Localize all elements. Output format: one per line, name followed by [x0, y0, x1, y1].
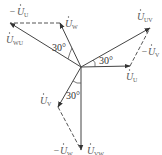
label-neg-u-w: − U W — [53, 143, 73, 155]
label-u-w: U W — [65, 16, 78, 30]
label-u-uv: U UV — [137, 9, 153, 23]
svg-text:−: − — [141, 46, 148, 57]
label-u-wu: U WU — [6, 32, 24, 46]
angle-label-top-left: 30° — [52, 42, 66, 53]
svg-text:UV: UV — [144, 17, 153, 23]
phasor-u-v — [58, 67, 81, 107]
phasor-u-u — [81, 66, 130, 67]
label-u-vw: U VW — [87, 143, 104, 155]
svg-text:U: U — [133, 77, 138, 83]
svg-text:W: W — [72, 24, 78, 30]
svg-text:−: − — [53, 145, 60, 155]
svg-text:U: U — [24, 12, 29, 18]
svg-text:V: V — [155, 52, 160, 58]
phasor-diagram: 30° 30° 30° U W − U U U WU U UV − U V U … — [0, 0, 162, 155]
angle-arc-v-vw — [73, 81, 81, 83]
angle-arc-wu-w — [68, 48, 72, 59]
phasor-neg-u-w — [58, 107, 81, 150]
label-u-v: U V — [40, 93, 52, 107]
angle-label-bottom: 30° — [66, 90, 80, 101]
label-neg-u-v: − U V — [141, 44, 160, 58]
angle-label-right: 30° — [99, 55, 113, 66]
label-u-u: U U — [126, 69, 138, 83]
angle-arc-u-uv — [93, 60, 95, 67]
svg-text:VW: VW — [94, 151, 104, 155]
label-neg-u-u: − U U — [9, 4, 29, 18]
svg-text:V: V — [47, 101, 52, 107]
svg-text:WU: WU — [13, 40, 24, 46]
svg-text:−: − — [9, 6, 16, 17]
svg-text:W: W — [67, 151, 73, 155]
